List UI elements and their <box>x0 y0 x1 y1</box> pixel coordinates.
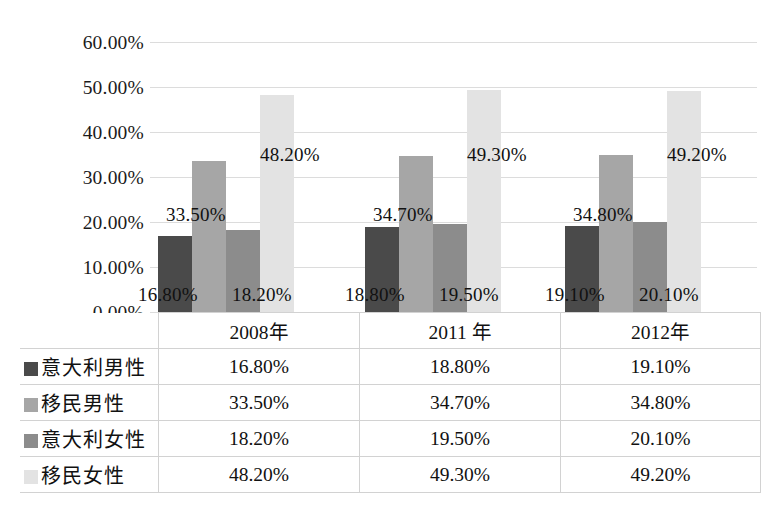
bar-value-label: 49.30% <box>467 145 527 164</box>
y-axis-tick-label: 50.00% <box>14 78 144 98</box>
table-value-cell: 18.80% <box>360 349 561 385</box>
legend-swatch-icon <box>24 362 38 376</box>
table-value-cell: 20.10% <box>561 421 761 457</box>
bar-value-label: 49.20% <box>667 145 727 164</box>
table-value-cell: 34.70% <box>360 385 561 421</box>
bar-value-label: 19.50% <box>439 285 499 304</box>
y-axis-tick-label: 60.00% <box>14 33 144 53</box>
table-column-header: 2012年 <box>561 313 761 349</box>
data-table: 2008年2011 年2012年意大利男性16.80%18.80%19.10%移… <box>20 312 761 493</box>
legend-series-label: 意大利男性 <box>41 357 146 379</box>
legend-swatch-icon <box>24 434 38 448</box>
table-corner-cell <box>20 313 159 349</box>
y-axis-tick-label: 40.00% <box>14 123 144 143</box>
legend-entry[interactable]: 意大利男性 <box>20 349 159 385</box>
bar-stack <box>565 42 701 312</box>
y-axis-tick-label: 20.00% <box>14 213 144 233</box>
legend-entry[interactable]: 意大利女性 <box>20 421 159 457</box>
table-row: 移民女性48.20%49.30%49.20% <box>20 457 761 493</box>
table-column-header: 2011 年 <box>360 313 561 349</box>
bar-value-label: 16.80% <box>138 285 198 304</box>
legend-entry[interactable]: 移民女性 <box>20 457 159 493</box>
table-row: 意大利女性18.20%19.50%20.10% <box>20 421 761 457</box>
y-axis-tick-label: 10.00% <box>14 258 144 278</box>
table-header-row: 2008年2011 年2012年 <box>20 313 761 349</box>
legend-series-label: 意大利女性 <box>41 429 146 451</box>
bar-stack <box>365 42 501 312</box>
chart-figure: 60.00%50.00%40.00%30.00%20.00%10.00%0.00… <box>0 0 775 529</box>
plot-area: 16.80%33.50%18.20%48.20%18.80%34.70%19.5… <box>150 42 757 312</box>
legend-series-label: 移民女性 <box>41 465 125 487</box>
table-row: 意大利男性16.80%18.80%19.10% <box>20 349 761 385</box>
table-value-cell: 18.20% <box>159 421 360 457</box>
y-axis-tick-label: 30.00% <box>14 168 144 188</box>
bar-value-label: 33.50% <box>166 205 226 224</box>
legend-swatch-icon <box>24 470 38 484</box>
table-value-cell: 33.50% <box>159 385 360 421</box>
bar-group <box>565 42 701 312</box>
bar[interactable] <box>467 90 501 312</box>
table-value-cell: 48.20% <box>159 457 360 493</box>
table-value-cell: 19.50% <box>360 421 561 457</box>
bar-value-label: 18.80% <box>345 285 405 304</box>
bar-value-label: 20.10% <box>639 285 699 304</box>
bar[interactable] <box>260 95 294 312</box>
table-value-cell: 34.80% <box>561 385 761 421</box>
bar-group <box>365 42 501 312</box>
bar-value-label: 19.10% <box>545 285 605 304</box>
bar-group <box>158 42 294 312</box>
table-column-header: 2008年 <box>159 313 360 349</box>
table-value-cell: 49.30% <box>360 457 561 493</box>
table-value-cell: 19.10% <box>561 349 761 385</box>
table-row: 移民男性33.50%34.70%34.80% <box>20 385 761 421</box>
legend-series-label: 移民男性 <box>41 393 125 415</box>
legend-swatch-icon <box>24 398 38 412</box>
bar[interactable] <box>667 91 701 312</box>
table-value-cell: 49.20% <box>561 457 761 493</box>
bar-value-label: 18.20% <box>232 285 292 304</box>
bar-value-label: 34.70% <box>373 205 433 224</box>
table-value-cell: 16.80% <box>159 349 360 385</box>
bar-value-label: 34.80% <box>573 205 633 224</box>
legend-entry[interactable]: 移民男性 <box>20 385 159 421</box>
bar-stack <box>158 42 294 312</box>
bar-value-label: 48.20% <box>260 145 320 164</box>
